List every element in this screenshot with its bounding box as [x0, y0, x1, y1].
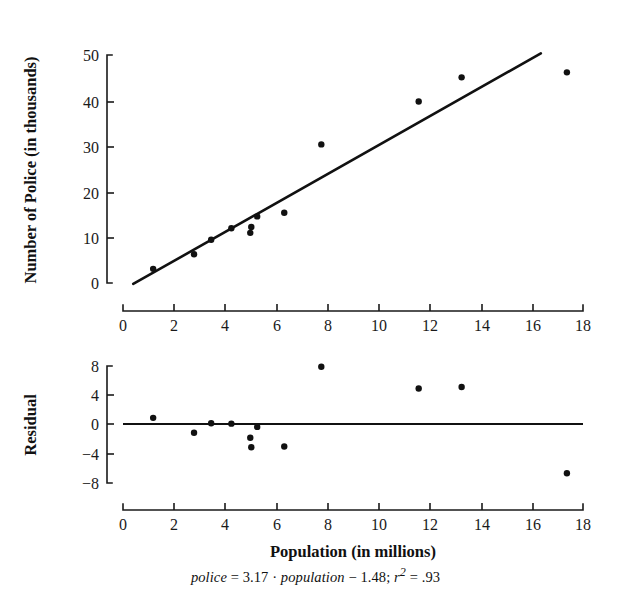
scatter-x-label-16: 16 — [525, 317, 541, 334]
data-point — [228, 225, 234, 231]
caption-semicolon: ; — [386, 569, 394, 585]
residual-x-label-4: 4 — [221, 516, 229, 533]
data-point — [150, 415, 156, 421]
x-axis-title: Population (in millions) — [270, 542, 436, 561]
scatter-x-label-10: 10 — [371, 317, 387, 334]
residual-x-label-14: 14 — [474, 516, 490, 533]
residual-x-label-2: 2 — [170, 516, 178, 533]
scatter-x-label-8: 8 — [324, 317, 332, 334]
residual-x-axis: 0 2 4 6 8 10 12 14 16 18 — [119, 503, 591, 533]
data-point — [228, 420, 234, 426]
data-point — [248, 444, 254, 450]
data-point — [254, 424, 260, 430]
caption-equals-2: = — [406, 569, 422, 585]
residual-x-label-0: 0 — [119, 516, 127, 533]
scatter-y-label-50: 50 — [83, 47, 99, 64]
scatter-panel: 50 40 30 20 10 0 Number of Police (in th… — [21, 47, 591, 334]
scatter-y-label-40: 40 — [83, 94, 99, 111]
data-point — [458, 384, 464, 390]
data-point — [208, 420, 214, 426]
figure-caption: police = 3.17 · population − 1.48; r2 = … — [0, 565, 631, 586]
scatter-x-label-0: 0 — [119, 317, 127, 334]
data-point — [247, 435, 253, 441]
caption-equals-1: = — [227, 569, 243, 585]
scatter-y-axis-spine — [107, 55, 112, 283]
data-point — [415, 98, 421, 104]
data-point — [191, 430, 197, 436]
residual-y-label-8: 8 — [91, 358, 99, 375]
scatter-y-label-10: 10 — [83, 230, 99, 247]
residual-data-points — [150, 364, 570, 477]
scatter-x-label-12: 12 — [422, 317, 438, 334]
data-point — [254, 213, 260, 219]
scatter-x-axis: 0 2 4 6 8 10 12 14 16 18 — [119, 304, 591, 334]
caption-multiply-dot: · — [268, 569, 280, 585]
data-point — [318, 364, 324, 370]
data-point — [564, 69, 570, 75]
scatter-y-label-0: 0 — [91, 275, 99, 292]
scatter-x-label-6: 6 — [273, 317, 281, 334]
caption-rsquared-value: .93 — [422, 569, 440, 585]
residual-x-label-16: 16 — [525, 516, 541, 533]
scatter-y-label-20: 20 — [83, 185, 99, 202]
residual-y-axis-title: Residual — [21, 394, 40, 456]
data-point — [415, 385, 421, 391]
residual-y-label-neg4: −4 — [82, 446, 99, 463]
residual-x-axis-spine — [123, 504, 583, 510]
figure-container: 50 40 30 20 10 0 Number of Police (in th… — [0, 0, 631, 601]
scatter-y-axis-title: Number of Police (in thousands) — [21, 56, 40, 283]
caption-slope: 3.17 — [243, 569, 269, 585]
scatter-y-label-30: 30 — [83, 139, 99, 156]
statistical-figure: 50 40 30 20 10 0 Number of Police (in th… — [0, 0, 631, 601]
scatter-x-label-14: 14 — [474, 317, 490, 334]
caption-intercept: 1.48 — [360, 569, 386, 585]
caption-minus-sign: − — [345, 569, 361, 585]
regression-line — [133, 53, 541, 284]
data-point — [247, 230, 253, 236]
residual-y-axis: 8 4 0 −4 −8 — [82, 358, 114, 492]
residual-x-label-8: 8 — [324, 516, 332, 533]
residual-y-label-neg8: −8 — [82, 475, 99, 492]
caption-predictor-var: population — [281, 569, 345, 585]
data-point — [281, 443, 287, 449]
residual-x-label-10: 10 — [371, 516, 387, 533]
residual-x-label-18: 18 — [575, 516, 591, 533]
scatter-x-label-2: 2 — [170, 317, 178, 334]
caption-response-var: police — [191, 569, 227, 585]
data-point — [281, 210, 287, 216]
residual-y-label-0: 0 — [91, 416, 99, 433]
data-point — [208, 236, 214, 242]
residual-y-label-4: 4 — [91, 387, 99, 404]
data-point — [150, 266, 156, 272]
scatter-x-label-18: 18 — [575, 317, 591, 334]
residual-panel: 8 4 0 −4 −8 Residual 0 2 — [21, 358, 591, 561]
residual-x-label-12: 12 — [422, 516, 438, 533]
data-point — [318, 141, 324, 147]
data-point — [248, 224, 254, 230]
scatter-data-points — [150, 69, 570, 272]
data-point — [564, 470, 570, 476]
scatter-x-label-4: 4 — [221, 317, 229, 334]
data-point — [458, 74, 464, 80]
scatter-y-axis: 50 40 30 20 10 0 — [83, 47, 114, 292]
residual-x-label-6: 6 — [273, 516, 281, 533]
data-point — [191, 251, 197, 257]
scatter-x-axis-spine — [123, 305, 583, 311]
